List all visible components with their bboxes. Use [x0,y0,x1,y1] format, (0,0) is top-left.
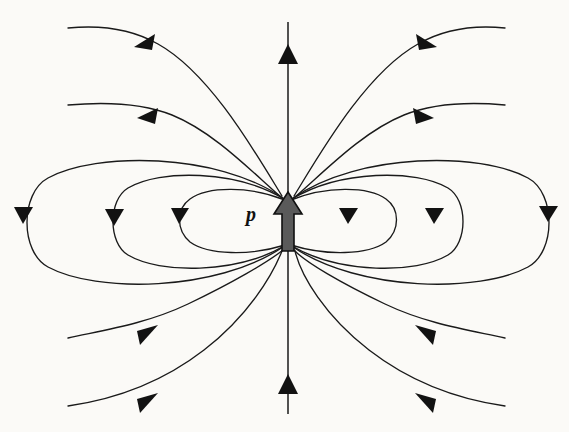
closed-loop-right-middle [292,175,463,268]
dipole-arrow-shape [274,192,302,251]
dipole-moment-label: p [246,204,256,224]
arrowhead-left-loop-middle [105,209,124,226]
arrowhead-right-loop-outer [539,206,558,222]
closed-loop-left-inner [180,189,286,252]
closed-loop-right-inner [291,189,397,252]
field-line-diagram [0,0,569,432]
arrowhead-upper-axis [278,44,298,64]
open-line-upper-right-1 [294,27,505,196]
open-line-lower-left-2 [68,251,282,406]
arrowhead-right-loop-middle [425,208,444,224]
dipole-field-figure: p [0,0,569,432]
open-line-upper-left-1 [68,27,282,196]
arrowhead-left-loop-outer [14,207,33,224]
arrowhead-lower-right-1 [415,325,436,345]
arrowhead-left-loop-inner [171,208,189,224]
open-line-lower-right-2 [295,251,505,406]
open-line-lower-right-1 [294,250,505,338]
dipole-moment-arrow [274,192,302,251]
arrowhead-upper-left-2 [137,108,158,124]
arrowhead-right-loop-inner [339,208,358,224]
closed-loop-left-middle [113,175,284,268]
arrowhead-lower-axis [278,374,298,394]
arrowhead-lower-right-2 [415,393,436,413]
arrowhead-upper-right-2 [413,108,434,124]
right-closed-loops [291,160,549,284]
arrowhead-upper-left-1 [134,34,155,50]
open-line-upper-right-2 [295,104,505,197]
arrowhead-lower-left-2 [137,393,158,413]
arrowhead-lower-left-1 [137,325,158,345]
